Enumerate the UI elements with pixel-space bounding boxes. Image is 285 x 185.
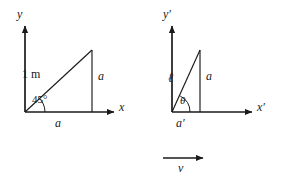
rest-frame-y-axis-label: y xyxy=(17,8,22,20)
moving-frame-angle-label: θ xyxy=(180,95,185,106)
moving-frame-vertical-side-label: a xyxy=(206,70,212,82)
moving-frame-x-axis-label: x′ xyxy=(257,101,265,113)
rest-frame-horizontal-side-label: a xyxy=(55,117,61,129)
physics-diagram: y x 1 m a a 45° y′ x′ ℓ a a′ θ v xyxy=(0,0,285,185)
rest-frame-hypotenuse-label: 1 m xyxy=(22,68,40,80)
moving-frame-hypotenuse-label: ℓ xyxy=(168,71,173,84)
moving-frame-y-axis-label: y′ xyxy=(163,8,171,20)
rest-frame-angle-label: 45° xyxy=(32,94,47,105)
moving-frame-hypotenuse xyxy=(172,50,200,112)
velocity-label: v xyxy=(178,162,183,174)
rest-frame-x-axis-label: x xyxy=(119,101,124,113)
rest-frame-vertical-side-label: a xyxy=(98,70,104,82)
moving-frame-horizontal-side-label: a′ xyxy=(176,117,185,129)
